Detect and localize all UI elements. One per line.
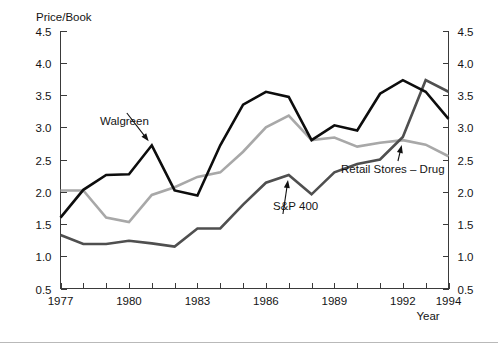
y-axis-ticks-left [61,32,67,290]
y-tick-label-right: 3.0 [458,122,474,134]
x-tick-label: 1977 [48,295,74,307]
y-tick-label-left: 3.0 [36,122,52,134]
price-book-line-chart: Price/Book 0.51.01.52.02.53.03.54.04.5 0… [0,0,498,343]
y-tick-label-right: 4.0 [458,58,474,70]
chart-canvas: Price/Book 0.51.01.52.02.53.03.54.04.5 0… [0,0,498,343]
y-tick-label-left: 2.5 [36,155,52,167]
y-tick-label-left: 1.0 [36,251,52,263]
series-annotations-group: WalgreenS&P 400Retail Stores – Drug [100,113,445,214]
x-tick-label: 1992 [390,295,416,307]
y-tick-label-left: 1.5 [36,219,52,231]
annotation-label-retail-stores-drug: Retail Stores – Drug [341,163,445,175]
annotation-arrowhead-retail-stores-drug [397,145,403,153]
y-tick-label-right: 1.5 [458,219,474,231]
x-tick-label: 1989 [322,295,348,307]
left-bottom-axis [61,31,449,289]
x-tick-label: 1980 [116,295,142,307]
x-axis-labels: 1977198019831986198919921994 [48,295,462,307]
y-axis-labels-left: 0.51.01.52.02.53.03.54.04.5 [36,26,52,296]
y-axis-ticks-right [443,32,449,290]
y-axis-labels-right: 0.51.01.52.02.53.03.54.04.5 [458,26,474,296]
y-tick-label-left: 4.0 [36,58,52,70]
axes-group [61,31,449,289]
y-axis-title: Price/Book [36,11,92,23]
y-tick-label-right: 2.0 [458,187,474,199]
x-tick-label: 1986 [253,295,279,307]
y-tick-label-right: 3.5 [458,90,474,102]
y-tick-label-left: 4.5 [36,26,52,38]
annotation-arrowhead-walgreen [141,133,148,141]
x-tick-label: 1994 [436,295,462,307]
annotation-label-walgreen: Walgreen [100,115,149,127]
y-tick-label-right: 2.5 [458,155,474,167]
annotation-label-s-p-400: S&P 400 [273,200,318,212]
y-tick-label-left: 2.0 [36,187,52,199]
x-axis-ticks [62,283,450,289]
y-tick-label-right: 4.5 [458,26,474,38]
x-axis-title: Year [416,310,439,322]
y-tick-label-right: 1.0 [458,251,474,263]
y-tick-label-left: 3.5 [36,90,52,102]
x-tick-label: 1983 [185,295,211,307]
annotation-arrowhead-s-p-400 [284,180,290,188]
